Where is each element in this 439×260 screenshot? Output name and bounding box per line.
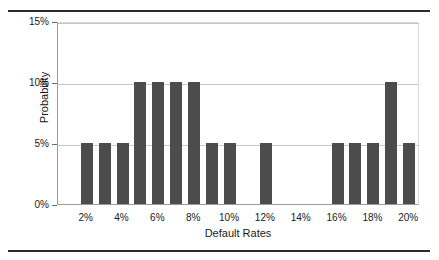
bar [134, 82, 146, 204]
bar [99, 143, 111, 204]
x-tick-label: 20% [388, 213, 428, 223]
chart-figure: 0%5%10%15% 2%4%6%8%10%12%14%16%18%20% Pr… [0, 0, 439, 260]
bar [206, 143, 218, 204]
bar [367, 143, 379, 204]
x-tick-label: 12% [245, 213, 285, 223]
bottom-divider-rule [8, 250, 430, 252]
bar [224, 143, 236, 204]
bar [117, 143, 129, 204]
bar [188, 82, 200, 204]
y-tick-mark [52, 22, 57, 23]
y-tick-mark [52, 83, 57, 84]
y-tick-mark [52, 205, 57, 206]
top-divider-rule [8, 10, 430, 12]
x-tick-label: 8% [173, 213, 213, 223]
bar [385, 82, 397, 204]
x-tick-label: 14% [281, 213, 321, 223]
bar [260, 143, 272, 204]
x-tick-label: 2% [66, 213, 106, 223]
plot-area [57, 22, 419, 205]
bar [170, 82, 182, 204]
x-tick-label: 10% [209, 213, 249, 223]
y-tick-label: 0% [5, 200, 49, 210]
y-tick-mark [52, 144, 57, 145]
x-tick-label: 6% [137, 213, 177, 223]
y-axis-title: Probability [39, 38, 50, 158]
x-axis-title: Default Rates [57, 228, 419, 239]
bar [349, 143, 361, 204]
x-tick-label: 18% [352, 213, 392, 223]
y-tick-label: 15% [5, 17, 49, 27]
bar [332, 143, 344, 204]
bar [81, 143, 93, 204]
x-tick-label: 16% [317, 213, 357, 223]
bar [152, 82, 164, 204]
x-tick-label: 4% [102, 213, 142, 223]
bars-layer [58, 23, 418, 204]
bar [403, 143, 415, 204]
